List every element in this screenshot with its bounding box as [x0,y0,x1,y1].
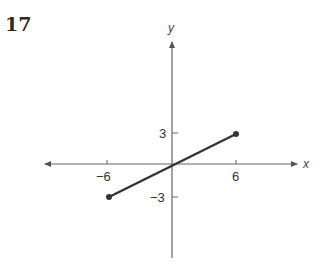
x-axis-label: x [302,157,310,171]
y-tick-label-3: 3 [159,126,166,141]
coordinate-plot: −6 6 3 −3 x y [0,0,327,266]
x-tick-label-6: 6 [232,169,239,184]
y-axis-label: y [167,21,175,35]
endpoint-6-3 [233,131,239,137]
endpoint-neg6-neg3 [106,194,112,200]
y-tick-label-neg3: −3 [150,190,165,205]
x-tick-label-neg6: −6 [96,169,111,184]
